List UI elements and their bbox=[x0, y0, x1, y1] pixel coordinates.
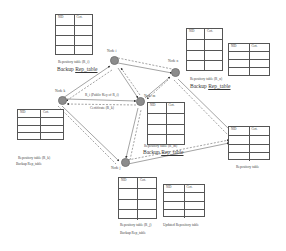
label-repo-rk: Repository table (R_k) bbox=[18, 157, 50, 161]
label-repo-destination: Repository table bbox=[236, 166, 259, 170]
node-i-label: Node i bbox=[107, 50, 116, 54]
label-repo-ri: Repository table (R_i) bbox=[58, 61, 89, 65]
node-i bbox=[110, 56, 119, 65]
label-repo-rm: Repository table (R_m) bbox=[144, 145, 177, 149]
repository-table-destination: NIDCert. bbox=[228, 126, 270, 160]
edge-label-public-key: R_i (Public Key of R_i) bbox=[85, 94, 119, 98]
node-j bbox=[121, 158, 130, 167]
repository-table-rj: NIDCert. bbox=[118, 177, 157, 219]
label-backup-rm: Backup Rep_table bbox=[143, 150, 184, 156]
node-k-label: Node k bbox=[55, 90, 65, 94]
label-repo-rj: Repository table (R_j) bbox=[120, 224, 151, 228]
node-k bbox=[58, 96, 67, 105]
repository-table-rk: NIDCert. bbox=[17, 109, 64, 140]
label-backup-rn: Backup Rep_table bbox=[190, 84, 231, 90]
repository-table-rm: NIDCert. bbox=[147, 102, 185, 145]
node-n bbox=[171, 68, 180, 77]
label-repo-rn: Repository table (R_n) bbox=[190, 78, 222, 82]
updated-repository-table: NIDCert. bbox=[163, 184, 205, 217]
backup-table-rn: NIDCert. bbox=[228, 43, 270, 76]
node-n-label: Node n bbox=[168, 60, 178, 64]
repository-table-ri: NIDCert. bbox=[55, 14, 93, 55]
label-backup-rj: Backup Rep_table bbox=[120, 232, 146, 236]
node-j-label: Node j bbox=[111, 167, 120, 171]
edge-label-certificate: Certificate (R_k) bbox=[90, 107, 114, 111]
repository-table-rn: NIDCert. bbox=[186, 28, 223, 71]
label-updated-repo: Updated Repository table bbox=[163, 224, 199, 228]
diagram-canvas: Node i Node k Node n Node m Node j R_i (… bbox=[0, 0, 286, 251]
node-m-label: Node m bbox=[144, 95, 155, 99]
label-backup-ri: Backup Rep_table bbox=[57, 67, 98, 73]
label-backup-rk: Backup Rep_table bbox=[16, 163, 42, 167]
